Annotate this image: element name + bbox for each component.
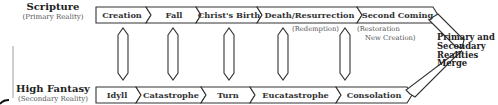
stage-catastrophe: Catastrophe [139,87,203,103]
note-restoration-line2: New Creation) [365,34,416,42]
primary-row-label: Scripture (Primary Reality) [18,2,88,21]
stage-creation: Creation [96,7,148,23]
note-restoration-line1: (Restoration [357,25,400,33]
stage-death-resurrection: Death/Resurrection [260,7,359,23]
double-arrow-icon [224,28,234,80]
note-redemption: (Redemption) [292,25,339,33]
stage-christs-birth: Christ's Birth [199,7,259,23]
stage-consolation: Consolation [339,87,409,103]
secondary-row-label: High Fantasy (Secondary Reality) [15,84,91,103]
double-arrow-icon [278,28,288,80]
stage-idyll: Idyll [96,87,138,103]
double-arrow-icon [340,28,350,80]
merge-label: Primary and Secondary Realities Merge [437,33,495,68]
stage-eucatastrophe: Eucatastrophe [253,87,338,103]
secondary-subtitle: (Secondary Reality) [15,96,91,103]
primary-subtitle: (Primary Reality) [18,14,88,21]
merge-line-4: Merge [437,59,495,68]
secondary-title: High Fantasy [15,84,91,94]
stage-second-coming: Second Coming [360,7,435,23]
stage-turn: Turn [204,87,252,103]
double-arrow-icon [118,28,128,80]
stage-fall: Fall [149,7,199,23]
double-arrow-icon [168,28,178,80]
primary-title: Scripture [18,2,88,12]
